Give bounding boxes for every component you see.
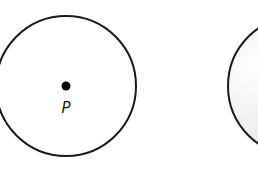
center-point-p	[62, 82, 71, 91]
right-shaded-sphere	[228, 16, 258, 156]
point-label-p: P	[61, 99, 71, 117]
diagram-canvas: P	[0, 0, 258, 177]
